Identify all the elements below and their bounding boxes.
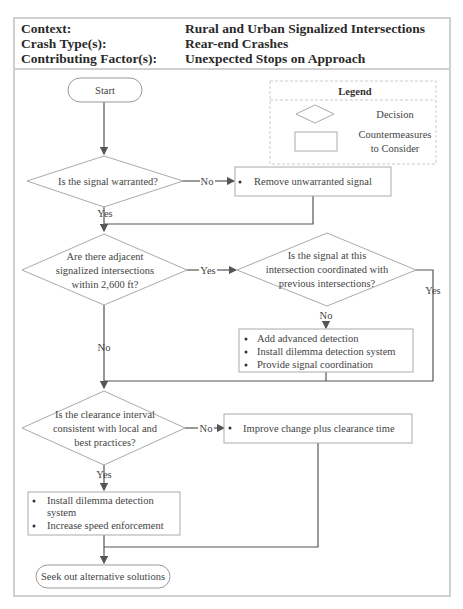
legend-countermeasures-label-1: Countermeasures: [359, 129, 432, 140]
decision1-no-label: No: [201, 176, 214, 187]
decision2-yes-label: Yes: [200, 265, 215, 276]
action4-item1-line2: system: [47, 507, 76, 518]
action2-item3: Provide signal coordination: [257, 359, 374, 370]
action1-item: Remove unwarranted signal: [254, 176, 372, 187]
decision2-no-label: No: [98, 342, 111, 353]
end-label: Seek out alternative solutions: [41, 571, 165, 582]
decision3-yes-label: Yes: [425, 285, 440, 296]
legend-title: Legend: [338, 86, 371, 97]
decision4-yes-label: Yes: [96, 469, 111, 480]
decision4-line3: best practices?: [74, 437, 136, 448]
decision1-text: Is the signal warranted?: [58, 176, 158, 187]
decision4-line1: Is the clearance interval: [55, 409, 155, 420]
action4-item2: Increase speed enforcement: [47, 520, 164, 531]
decision2-line2: signalized intersections: [56, 265, 154, 276]
legend-decision-label: Decision: [376, 109, 414, 120]
decision4-line2: consistent with local and: [53, 423, 158, 434]
action2-item2: Install dilemma detection system: [257, 346, 396, 357]
decision3-line3: previous intersections?: [279, 278, 376, 289]
flowchart: Start Legend Decision Countermeasures to…: [0, 0, 463, 609]
legend-countermeasure-icon: [295, 132, 337, 151]
decision2-line3: within 2,600 ft?: [72, 279, 139, 290]
action4-item1-line1: Install dilemma detection: [47, 495, 154, 506]
decision3-line2: intersection coordinated with: [266, 264, 389, 275]
decision3-line1: Is the signal at this: [288, 250, 367, 261]
decision1-yes-label: Yes: [97, 208, 112, 219]
legend-countermeasures-label-2: to Consider: [371, 143, 420, 154]
action3-item: Improve change plus clearance time: [243, 423, 395, 434]
action2-item1: Add advanced detection: [257, 333, 359, 344]
decision2-line1: Are there adjacent: [67, 251, 144, 262]
start-label: Start: [95, 85, 115, 96]
decision4-no-label: No: [200, 423, 213, 434]
decision3-no-label: No: [320, 310, 333, 321]
